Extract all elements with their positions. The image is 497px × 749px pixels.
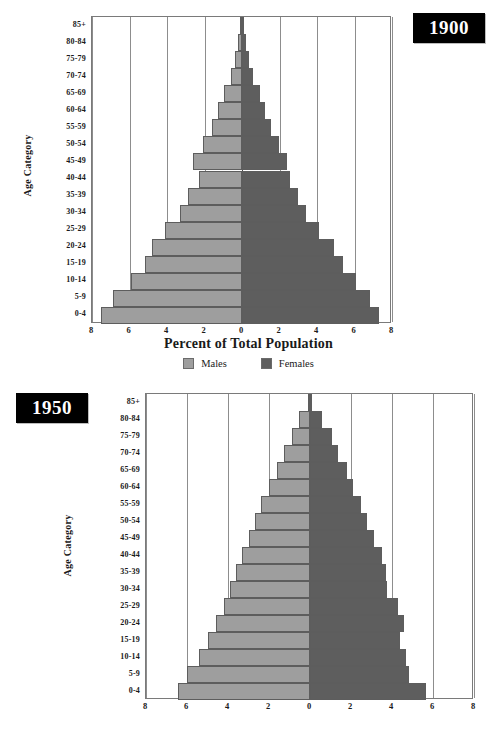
y-tick-35-39: 35-39 — [66, 190, 86, 199]
legend-item-females: Females — [261, 358, 314, 369]
bar-female-45-49 — [310, 530, 374, 547]
legend-label-males: Males — [201, 358, 227, 369]
bar-female-0-4 — [310, 683, 426, 700]
bar-female-10-14 — [242, 273, 356, 290]
x-tick-5: 2 — [342, 701, 358, 711]
y-tick-10-14: 10-14 — [66, 275, 86, 284]
bar-row — [146, 462, 472, 479]
y-tick-50-54: 50-54 — [66, 139, 86, 148]
y-tick-50-54: 50-54 — [120, 516, 140, 525]
legend-swatch-males-icon — [183, 358, 194, 369]
bar-female-60-64 — [242, 102, 265, 119]
bar-female-55-59 — [242, 119, 271, 136]
y-tick-70-74: 70-74 — [120, 448, 140, 457]
bar-female-15-19 — [310, 632, 400, 649]
bar-female-45-49 — [242, 153, 287, 170]
y-tick-75-79: 75-79 — [66, 54, 86, 63]
bar-row — [92, 136, 390, 153]
x-tick-8: 8 — [465, 701, 481, 711]
bar-female-25-29 — [242, 222, 319, 239]
bar-female-50-54 — [310, 513, 367, 530]
bar-row — [92, 119, 390, 136]
y-axis-title: Age Category — [62, 501, 73, 591]
x-tick-5: 2 — [271, 325, 287, 335]
bar-female-60-64 — [310, 479, 353, 496]
bar-female-50-54 — [242, 136, 279, 153]
bar-row — [92, 239, 390, 256]
bar-row — [146, 479, 472, 496]
chart-legend: Males Females — [0, 358, 497, 369]
y-tick-65-69: 65-69 — [66, 88, 86, 97]
y-tick-15-19: 15-19 — [120, 635, 140, 644]
bar-male-30-34 — [230, 581, 310, 598]
bar-female-75-79 — [310, 428, 332, 445]
x-tick-0: 8 — [137, 701, 153, 711]
bar-male-50-54 — [255, 513, 310, 530]
bar-female-55-59 — [310, 496, 361, 513]
x-tick-2: 4 — [158, 325, 174, 335]
y-tick-45-49: 45-49 — [66, 156, 86, 165]
bar-male-45-49 — [193, 153, 242, 170]
bar-row — [92, 85, 390, 102]
bar-female-20-24 — [242, 239, 334, 256]
x-tick-7: 6 — [346, 325, 362, 335]
plot-area-1900 — [91, 16, 391, 323]
bar-row — [146, 411, 472, 428]
bar-female-20-24 — [310, 615, 404, 632]
bar-male-5-9 — [113, 290, 242, 307]
legend-swatch-females-icon — [261, 358, 272, 369]
y-tick-25-29: 25-29 — [66, 224, 86, 233]
x-tick-2: 4 — [219, 701, 235, 711]
bar-series-container — [92, 17, 390, 322]
bar-male-20-24 — [152, 239, 242, 256]
bar-row — [92, 188, 390, 205]
bar-male-35-39 — [236, 564, 310, 581]
y-tick-20-24: 20-24 — [66, 241, 86, 250]
bar-female-40-44 — [310, 547, 382, 564]
bar-female-5-9 — [242, 290, 370, 307]
pyramid-chart-1950: 1950 Age Category 85+80-8475-7970-7465-6… — [0, 380, 497, 749]
y-tick-85+: 85+ — [73, 20, 86, 29]
y-tick-80-84: 80-84 — [66, 37, 86, 46]
bar-row — [92, 51, 390, 68]
year-badge-1950: 1950 — [16, 393, 88, 423]
y-tick-65-69: 65-69 — [120, 465, 140, 474]
bar-row — [92, 205, 390, 222]
bar-row — [146, 547, 472, 564]
x-tick-7: 6 — [424, 701, 440, 711]
x-tick-3: 2 — [260, 701, 276, 711]
x-tick-6: 4 — [308, 325, 324, 335]
bar-male-55-59 — [212, 119, 242, 136]
bar-male-40-44 — [199, 171, 242, 188]
bar-female-80-84 — [242, 34, 246, 51]
bar-male-65-69 — [277, 462, 310, 479]
y-tick-0-4: 0-4 — [75, 309, 86, 318]
bar-female-0-4 — [242, 307, 379, 324]
bar-male-60-64 — [269, 479, 310, 496]
y-tick-5-9: 5-9 — [129, 669, 140, 678]
bar-male-20-24 — [216, 615, 310, 632]
bar-row — [92, 102, 390, 119]
bar-row — [92, 273, 390, 290]
x-tick-0: 8 — [83, 325, 99, 335]
y-tick-40-44: 40-44 — [66, 173, 86, 182]
bar-row — [92, 290, 390, 307]
bar-male-5-9 — [187, 666, 310, 683]
y-tick-60-64: 60-64 — [66, 105, 86, 114]
x-tick-3: 2 — [196, 325, 212, 335]
bar-female-35-39 — [242, 188, 298, 205]
bar-female-40-44 — [242, 171, 290, 188]
bar-female-85+ — [242, 17, 244, 34]
y-tick-25-29: 25-29 — [120, 601, 140, 610]
year-badge-1900: 1900 — [413, 13, 485, 43]
bar-female-65-69 — [242, 85, 260, 102]
bar-row — [146, 666, 472, 683]
bar-male-75-79 — [292, 428, 310, 445]
y-tick-60-64: 60-64 — [120, 482, 140, 491]
bar-female-30-34 — [310, 581, 387, 598]
x-tick-8: 8 — [383, 325, 399, 335]
y-tick-15-19: 15-19 — [66, 258, 86, 267]
bar-row — [92, 171, 390, 188]
bar-row — [146, 445, 472, 462]
bar-male-15-19 — [208, 632, 311, 649]
